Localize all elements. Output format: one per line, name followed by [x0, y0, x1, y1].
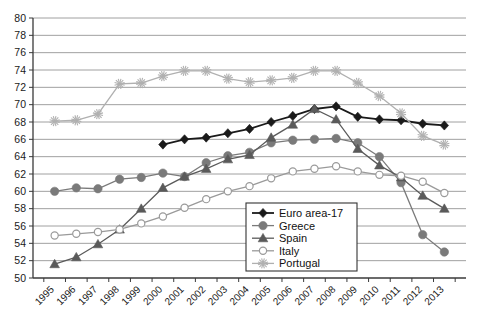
- data-point-triangle: [288, 120, 298, 128]
- data-point-circle-filled: [159, 169, 167, 177]
- legend-label: Portugal: [279, 257, 320, 269]
- chart-container: 5052545658606264666870727476788019951996…: [0, 0, 480, 327]
- y-axis-tick-label: 74: [14, 64, 26, 76]
- marker-circle-open: [116, 226, 123, 233]
- data-point-diamond: [180, 135, 188, 144]
- marker-diamond: [375, 115, 383, 124]
- marker-circle-filled: [159, 169, 167, 177]
- data-point-circle-filled: [115, 175, 123, 183]
- marker-triangle: [375, 161, 385, 169]
- marker-circle-open: [419, 178, 426, 185]
- data-point-circle-filled: [50, 187, 58, 195]
- marker-circle-open: [268, 175, 275, 182]
- y-axis-tick-label: 78: [14, 29, 26, 41]
- y-axis-tick-label: 72: [14, 81, 26, 93]
- x-axis-tick-label: 2012: [401, 283, 425, 307]
- marker-circle-open: [73, 230, 80, 237]
- series-euro-area-17: [159, 102, 449, 149]
- marker-circle-filled: [310, 135, 318, 143]
- data-point-asterisk: [158, 71, 168, 81]
- marker-triangle: [266, 133, 276, 141]
- data-point-circle-open: [268, 175, 275, 182]
- marker-circle-open: [289, 168, 296, 175]
- data-point-circle-filled: [289, 136, 297, 144]
- x-axis-tick-label: 1997: [76, 283, 100, 307]
- legend-label: Italy: [279, 245, 300, 257]
- marker-diamond: [180, 135, 188, 144]
- y-axis-tick-label: 76: [14, 46, 26, 58]
- marker-circle-open: [246, 183, 253, 190]
- x-axis-tick-label: 1998: [98, 283, 122, 307]
- y-axis-tick-label: 52: [14, 254, 26, 266]
- data-point-diamond: [332, 102, 340, 111]
- y-axis-tick-label: 54: [14, 237, 26, 249]
- data-point-circle-open: [311, 165, 318, 172]
- data-point-circle-open: [138, 220, 145, 227]
- marker-circle-filled: [419, 230, 427, 238]
- y-axis-tick-label: 66: [14, 133, 26, 145]
- marker-circle-open: [333, 163, 340, 170]
- marker-circle-open: [159, 213, 166, 220]
- marker-circle-filled: [289, 136, 297, 144]
- marker-circle-open: [51, 232, 58, 239]
- legend-label: Greece: [279, 220, 315, 232]
- data-point-circle-filled: [94, 185, 102, 193]
- marker-circle-open: [376, 171, 383, 178]
- legend-label: Euro area-17: [279, 207, 343, 219]
- chart-legend: Euro area-17GreeceSpainItalyPortugal: [246, 203, 357, 271]
- marker-diamond: [224, 129, 232, 138]
- marker-diamond: [354, 112, 362, 121]
- data-point-triangle: [158, 183, 168, 191]
- y-axis-tick-label: 56: [14, 220, 26, 232]
- data-point-circle-open: [354, 168, 361, 175]
- data-point-triangle: [266, 133, 276, 141]
- marker-circle-filled: [115, 175, 123, 183]
- data-point-triangle: [440, 204, 450, 212]
- marker-triangle: [72, 252, 82, 260]
- line-chart: 5052545658606264666870727476788019951996…: [0, 0, 480, 327]
- data-point-diamond: [375, 115, 383, 124]
- legend-item[interactable]: Greece: [252, 220, 315, 232]
- marker-circle-open: [181, 204, 188, 211]
- data-point-circle-open: [51, 232, 58, 239]
- gridlines-group: 50525456586062646668707274767880: [14, 12, 466, 284]
- data-point-circle-filled: [137, 173, 145, 181]
- data-point-diamond: [267, 117, 275, 126]
- y-axis-tick-label: 68: [14, 116, 26, 128]
- data-point-asterisk: [439, 140, 449, 150]
- marker-diamond: [332, 102, 340, 111]
- y-axis-tick-label: 60: [14, 185, 26, 197]
- data-point-asterisk: [353, 78, 363, 88]
- x-axis-tick-label: 2005: [249, 283, 273, 307]
- y-axis-tick-label: 70: [14, 98, 26, 110]
- data-point-circle-filled: [310, 135, 318, 143]
- data-point-circle-open: [246, 183, 253, 190]
- data-point-circle-open: [376, 171, 383, 178]
- marker-triangle: [158, 183, 168, 191]
- data-point-triangle: [331, 115, 341, 123]
- data-point-circle-open: [116, 226, 123, 233]
- data-point-diamond: [289, 111, 297, 120]
- x-axis-tick-label: 1999: [119, 283, 143, 307]
- x-axis-tick-label: 1995: [33, 283, 57, 307]
- x-axis-tick-label: 2006: [271, 283, 295, 307]
- data-point-diamond: [202, 133, 210, 142]
- marker-circle-filled: [50, 187, 58, 195]
- legend-label: Spain: [279, 232, 307, 244]
- data-point-circle-filled: [259, 221, 267, 229]
- data-point-circle-open: [289, 168, 296, 175]
- data-point-circle-open: [441, 189, 448, 196]
- y-axis-tick-label: 58: [14, 202, 26, 214]
- x-axis-tick-label: 1996: [54, 283, 78, 307]
- marker-circle-filled: [259, 221, 267, 229]
- marker-circle-open: [138, 220, 145, 227]
- marker-circle-open: [397, 172, 404, 179]
- legend-item[interactable]: Portugal: [252, 257, 320, 269]
- data-point-triangle: [375, 161, 385, 169]
- x-axis-tick-label: 2007: [292, 283, 316, 307]
- marker-circle-open: [203, 196, 210, 203]
- marker-diamond: [202, 133, 210, 142]
- x-axis-tick-label: 2001: [162, 283, 186, 307]
- data-point-diamond: [159, 140, 167, 149]
- y-axis-tick-label: 64: [14, 150, 26, 162]
